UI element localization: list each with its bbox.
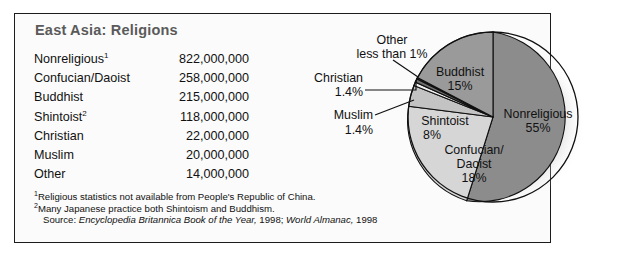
pie-label-christian-line2: 1.4% — [335, 85, 363, 99]
pie-label-other-line1: Other — [377, 33, 408, 47]
religion-name: Nonreligious1 — [34, 52, 108, 66]
pie-label-muslim-line1: Muslim — [334, 108, 373, 122]
footnote-2-text: Many Japanese practice both Shintoism an… — [38, 203, 275, 214]
pie-chart: Other less than 1% Christian 1.4% Muslim… — [330, 14, 618, 244]
religion-value: 118,000,000 — [180, 110, 249, 124]
footnote-ref: 2 — [82, 108, 86, 117]
pie-label-confucian-line3: 18% — [462, 171, 487, 185]
pie-label-confucian-line1: Confucian/ — [444, 143, 504, 157]
religion-name: Muslim — [34, 148, 74, 162]
pie-label-muslim-line2: 1.4% — [345, 123, 373, 137]
table-row: Muslim 20,000,000 — [34, 148, 249, 167]
pie-label-nonreligious-line2: 55% — [526, 121, 551, 135]
religion-name: Confucian/Daoist — [34, 71, 130, 85]
religion-name: Buddhist — [34, 90, 83, 104]
page-title: East Asia: Religions — [35, 22, 178, 38]
pie-chart-svg: Other less than 1% Christian 1.4% Muslim… — [330, 14, 618, 244]
religion-value: 258,000,000 — [179, 71, 249, 85]
pie-label-buddhist-line1: Buddhist — [436, 65, 485, 79]
religion-value: 20,000,000 — [186, 148, 249, 162]
source-prefix: Source: — [43, 214, 79, 225]
footnote-1-text: Religious statistics not available from … — [38, 191, 316, 202]
footnote-ref: 1 — [104, 51, 108, 60]
leader-line-other — [393, 60, 418, 77]
pie-label-shintoist-line1: Shintoist — [421, 114, 469, 128]
religion-name: Other — [34, 167, 66, 181]
footnote-2: 2Many Japanese practice both Shintoism a… — [34, 203, 377, 215]
footnote-1: 1Religious statistics not available from… — [34, 191, 377, 203]
table-row: Buddhist 215,000,000 — [34, 90, 249, 109]
religion-value: 822,000,000 — [179, 52, 249, 66]
religion-name: Christian — [34, 129, 84, 143]
religion-value: 215,000,000 — [179, 90, 249, 104]
religion-value: 22,000,000 — [186, 129, 249, 143]
pie-label-buddhist-line2: 15% — [448, 79, 473, 93]
pie-label-shintoist-line2: 8% — [423, 128, 441, 142]
source-middle: 1998; — [257, 214, 286, 225]
pie-label-nonreligious-line1: Nonreligious — [504, 107, 573, 121]
table-row: Shintoist2 118,000,000 — [34, 110, 249, 129]
table-row: Confucian/Daoist 258,000,000 — [34, 71, 249, 90]
leader-line-christian — [365, 80, 416, 90]
religion-name: Shintoist2 — [34, 110, 87, 124]
figure-east-asia-religions: East Asia: Religions Nonreligious1 822,0… — [0, 0, 618, 258]
religion-value-table: Nonreligious1 822,000,000 Confucian/Daoi… — [34, 52, 249, 186]
table-row: Nonreligious1 822,000,000 — [34, 52, 249, 71]
pie-label-other-line2: less than 1% — [357, 47, 428, 61]
source-line: Source: Encyclopedia Britannica Book of … — [34, 214, 377, 226]
table-row: Christian 22,000,000 — [34, 129, 249, 148]
table-row: Other 14,000,000 — [34, 167, 249, 186]
religion-value: 14,000,000 — [186, 167, 249, 181]
pie-label-christian-line1: Christian — [314, 71, 363, 85]
source-title-1: Encyclopedia Britannica Book of the Year… — [79, 214, 257, 225]
pie-label-confucian-line2: Daoist — [456, 157, 492, 171]
footnotes: 1Religious statistics not available from… — [34, 191, 377, 226]
